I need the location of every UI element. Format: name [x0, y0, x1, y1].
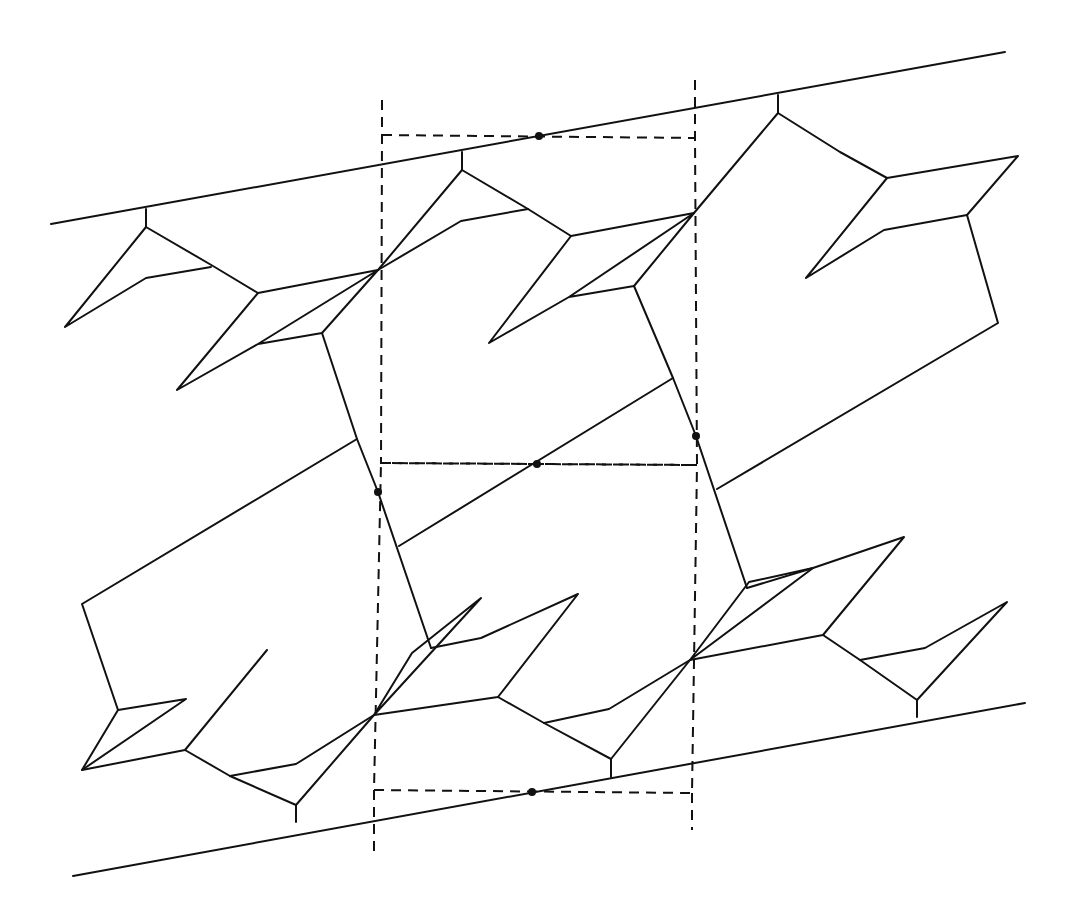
bond-path: [146, 209, 378, 293]
framework-bonds: [65, 95, 1018, 822]
diagram-canvas: [0, 0, 1077, 920]
bond-path: [296, 715, 374, 805]
lower-cell: [374, 463, 697, 793]
bond-path: [611, 660, 690, 759]
bond-path: [378, 209, 528, 270]
bond-path: [806, 178, 967, 278]
bond-path: [82, 439, 357, 710]
origin-dot-middle: [533, 460, 541, 468]
bond-path: [717, 215, 998, 489]
bond-path: [374, 594, 578, 715]
bond-path: [634, 286, 747, 588]
top-boundary-line: [51, 52, 1005, 224]
origin-dot-left: [374, 488, 382, 496]
bond-path: [498, 697, 611, 777]
bond-path: [690, 568, 813, 660]
origin-dot-right: [692, 432, 700, 440]
origin-dot-bottom: [528, 788, 536, 796]
bond-path: [778, 113, 1018, 215]
bond-path: [65, 227, 211, 327]
bottom-boundary-line: [73, 703, 1025, 876]
bond-path: [823, 635, 917, 717]
bond-path: [230, 715, 374, 776]
bond-path: [462, 170, 694, 236]
upper-cell: [381, 135, 697, 465]
bond-path: [544, 660, 690, 723]
bond-path: [378, 152, 462, 270]
bond-path: [185, 750, 296, 822]
bond-path: [690, 537, 904, 660]
framework-structure-diagram: [0, 0, 1077, 920]
bond-path: [694, 95, 778, 213]
bond-path: [860, 602, 1007, 700]
bond-path: [177, 270, 378, 390]
origin-dot-top: [535, 132, 543, 140]
bond-path: [374, 598, 481, 715]
